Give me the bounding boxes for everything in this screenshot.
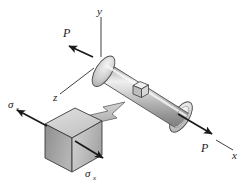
- figure-container: y x z P P σ x σ x: [0, 0, 247, 185]
- stress-label-lower-right-subscript: x: [92, 174, 97, 182]
- stress-element-cube: [45, 108, 102, 172]
- surface-element-cube: [133, 82, 149, 98]
- stress-label-lower-right: σ x: [85, 167, 97, 182]
- force-label-upper-left: P: [62, 26, 71, 40]
- stress-arrow-upper-left: [17, 110, 47, 126]
- stress-label-upper-left: σ x: [8, 98, 20, 113]
- force-arrow-upper-left: [69, 46, 93, 57]
- force-label-lower-right: P: [200, 141, 209, 155]
- axis-label-y: y: [96, 5, 102, 17]
- axis-z-line: [60, 68, 94, 94]
- axial-stress-diagram: y x z P P σ x σ x: [0, 0, 247, 185]
- axis-x-line: [216, 140, 233, 150]
- axis-label-z: z: [52, 91, 58, 103]
- axis-label-x: x: [231, 149, 237, 161]
- stress-label-upper-left-symbol: σ: [8, 98, 14, 110]
- stress-label-lower-right-symbol: σ: [85, 167, 91, 179]
